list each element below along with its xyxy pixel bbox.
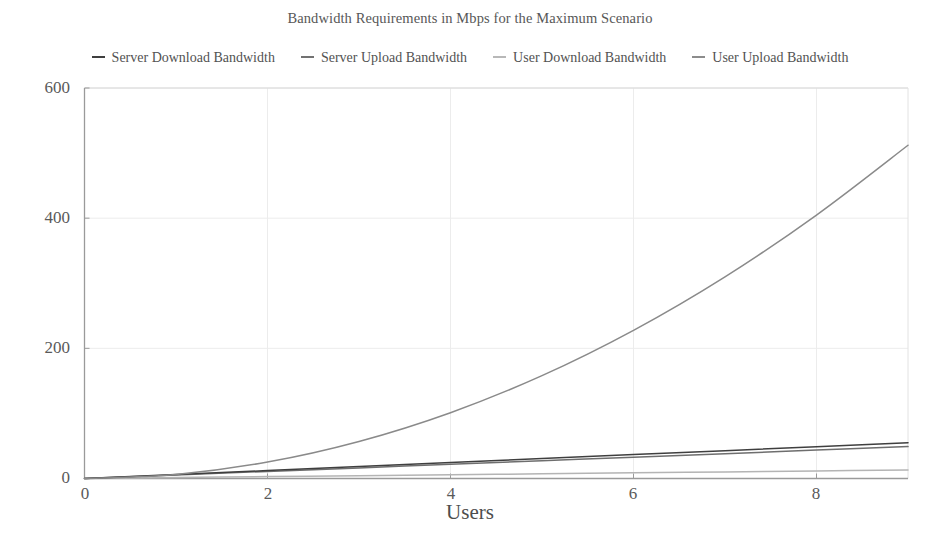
chart-figure: Bandwidth Requirements in Mbps for the M… bbox=[0, 0, 940, 545]
plot-canvas bbox=[0, 0, 940, 545]
plot-area bbox=[0, 0, 940, 545]
x-axis-title: Users bbox=[0, 500, 940, 525]
y-tick-label-200: 200 bbox=[8, 338, 70, 358]
series-line bbox=[85, 443, 909, 479]
series-line bbox=[85, 145, 909, 478]
y-tick-label-0: 0 bbox=[8, 468, 70, 488]
y-tick-label-400: 400 bbox=[8, 208, 70, 228]
y-tick-label-600: 600 bbox=[8, 78, 70, 98]
